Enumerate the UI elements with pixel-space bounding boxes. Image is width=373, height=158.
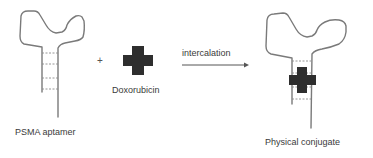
reaction-arrow — [182, 63, 249, 68]
doxorubicin-cross-icon — [123, 46, 153, 75]
physical-conjugate-label: Physical conjugate — [265, 137, 340, 147]
plus-operator: + — [97, 55, 103, 66]
diagram-canvas: + PSMA aptamer Doxorubicin intercalation… — [0, 0, 373, 158]
aptamer-base-pairs — [42, 53, 58, 89]
intercalation-label: intercalation — [182, 48, 231, 58]
psma-aptamer-label: PSMA aptamer — [15, 127, 76, 137]
doxorubicin-label: Doxorubicin — [112, 85, 160, 95]
psma-aptamer-shape — [20, 11, 84, 117]
